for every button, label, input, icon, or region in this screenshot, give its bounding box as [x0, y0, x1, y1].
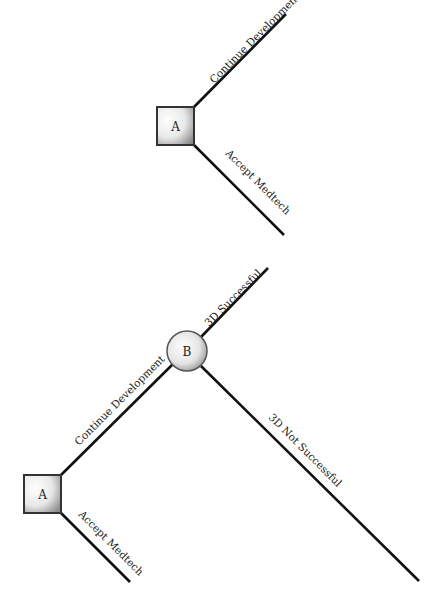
- tree-2: A B Continue Development Accept Medtech …: [24, 266, 419, 582]
- branch-3d-not-successful: [201, 366, 419, 581]
- label-accept-medtech-2: Accept Medtech: [76, 507, 147, 578]
- label-continue-development-2: Continue Development: [72, 352, 167, 447]
- branch-continue-development-2: [61, 364, 173, 475]
- decision-tree-diagram: A Continue Development Accept Medtech A …: [0, 0, 437, 609]
- node-a-label: A: [170, 120, 180, 134]
- label-3d-successful: 3D Successful: [202, 266, 264, 328]
- tree-1: A Continue Development Accept Medtech: [157, 0, 302, 235]
- node-a-label-2: A: [37, 488, 47, 502]
- node-b-label: B: [183, 345, 192, 359]
- label-accept-medtech: Accept Medtech: [223, 146, 294, 217]
- label-3d-not-successful: 3D Not Successful: [267, 411, 345, 489]
- label-continue-development: Continue Development: [207, 0, 302, 85]
